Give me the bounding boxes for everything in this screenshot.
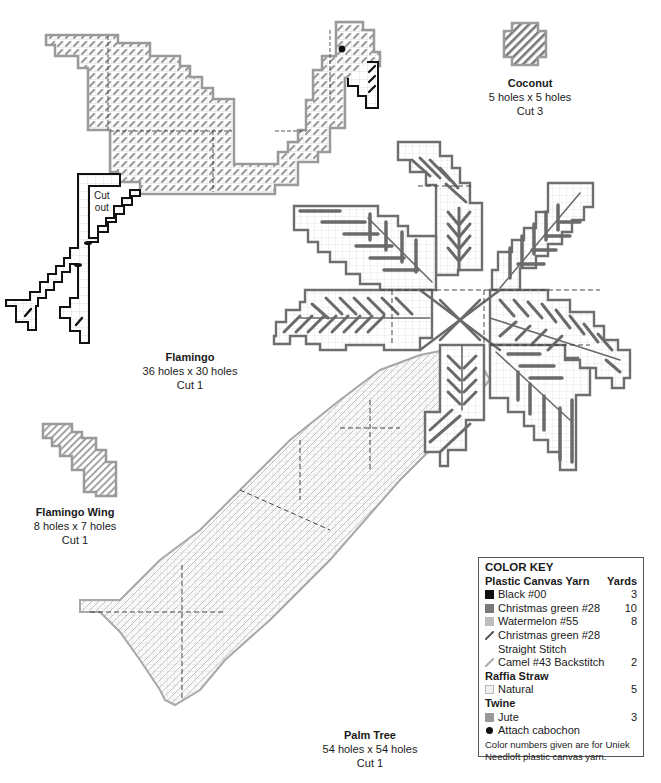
flamingo-wing-piece — [43, 424, 116, 496]
key-item-label: Black #00 — [498, 588, 546, 600]
yarn-heading: Plastic Canvas Yarn — [485, 575, 589, 589]
key-item-black: Black #00 3 — [485, 588, 637, 602]
cabochon-dot-icon — [486, 727, 493, 734]
black-swatch-icon — [485, 590, 494, 599]
twine-heading-row: Twine — [485, 697, 637, 711]
key-item-yards: 2 — [631, 656, 637, 670]
color-key-title: COLOR KEY — [485, 561, 637, 575]
key-item-jute: Jute 3 — [485, 711, 637, 725]
key-item-label: Christmas green #28 — [498, 629, 600, 641]
key-item-backstitch: Camel #43 Backstitch 2 — [485, 656, 637, 670]
palm-tree-title: Palm Tree — [310, 728, 430, 742]
key-item-yards: 3 — [631, 588, 637, 602]
yards-heading: Yards — [607, 575, 637, 589]
watermelon-swatch-icon — [485, 617, 494, 626]
key-item-yards: 5 — [631, 683, 637, 697]
key-item-label: Camel #43 Backstitch — [498, 656, 604, 668]
cutout-label: Cut out — [94, 190, 110, 214]
palm-tree-cut: Cut 1 — [310, 756, 430, 770]
flamingo-cut: Cut 1 — [130, 378, 250, 392]
cabochon-label: Attach cabochon — [498, 724, 580, 736]
flamingo-wing-cut: Cut 1 — [20, 533, 130, 547]
cutout-line-1: Cut — [94, 190, 110, 201]
jute-swatch-icon — [485, 713, 494, 722]
flamingo-piece — [46, 22, 380, 194]
flamingo-legs — [6, 174, 140, 343]
flamingo-size: 36 holes x 30 holes — [130, 364, 250, 378]
key-item-natural: Natural 5 — [485, 683, 637, 697]
key-item-straight-stitch: Christmas green #28 — [485, 629, 637, 643]
flamingo-wing-size: 8 holes x 7 holes — [20, 519, 130, 533]
twine-heading: Twine — [485, 697, 515, 711]
key-item-yards: 3 — [631, 711, 637, 725]
key-item-straight-stitch-line2: Straight Stitch — [485, 643, 637, 657]
palm-tree-label: Palm Tree 54 holes x 54 holes Cut 1 — [310, 728, 430, 770]
flamingo-wing-label: Flamingo Wing 8 holes x 7 holes Cut 1 — [20, 505, 130, 547]
yarn-heading-row: Plastic Canvas Yarn Yards — [485, 575, 637, 589]
key-item-label-2: Straight Stitch — [498, 643, 566, 657]
coconut-cut: Cut 3 — [480, 104, 580, 118]
cutout-line-2: out — [95, 202, 109, 213]
palm-trunk — [80, 345, 490, 705]
coconut-label: Coconut 5 holes x 5 holes Cut 3 — [480, 76, 580, 118]
coconut-title: Coconut — [480, 76, 580, 90]
backstitch-icon — [485, 658, 494, 667]
key-item-christmas-green: Christmas green #28 10 — [485, 602, 637, 616]
raffia-heading: Raffia Straw — [485, 670, 549, 684]
raffia-heading-row: Raffia Straw — [485, 670, 637, 684]
color-key: COLOR KEY Plastic Canvas Yarn Yards Blac… — [478, 557, 644, 757]
palm-tree-size: 54 holes x 54 holes — [310, 742, 430, 756]
straight-stitch-icon — [485, 631, 494, 640]
key-item-label: Christmas green #28 — [498, 602, 600, 614]
key-item-label: Jute — [498, 711, 519, 723]
coconut-size: 5 holes x 5 holes — [480, 90, 580, 104]
flamingo-title: Flamingo — [130, 350, 250, 364]
flamingo-label: Flamingo 36 holes x 30 holes Cut 1 — [130, 350, 250, 392]
key-item-yards: 10 — [625, 602, 637, 616]
coconut-piece — [504, 23, 546, 65]
natural-swatch-icon — [485, 685, 494, 694]
flamingo-wing-title: Flamingo Wing — [20, 505, 130, 519]
christmas-green-swatch-icon — [485, 604, 494, 613]
key-item-watermelon: Watermelon #55 8 — [485, 615, 637, 629]
key-item-label: Natural — [498, 683, 533, 695]
key-item-cabochon: Attach cabochon — [485, 724, 637, 738]
key-item-yards: 8 — [631, 615, 637, 629]
color-key-note: Color numbers given are for Uniek Needlo… — [485, 739, 637, 763]
key-item-label: Watermelon #55 — [498, 615, 578, 627]
